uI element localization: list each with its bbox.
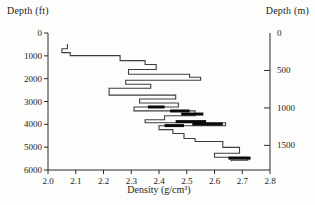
left-axis-tick-label: 1000	[24, 51, 43, 61]
left-axis-tick-label: 3000	[24, 97, 43, 107]
right-axis-tick-label: 0	[277, 28, 282, 38]
right-axis-title: Depth (m)	[266, 5, 309, 16]
left-axis-tick-label: 4000	[24, 119, 43, 129]
density-log-curve	[62, 44, 248, 161]
density-depth-figure: 01000200030004000500060000500100015002.0…	[0, 0, 315, 205]
left-axis-tick-label: 6000	[24, 165, 43, 175]
left-axis-tick-label: 2000	[24, 74, 43, 84]
x-axis-title: Density (g/cm³)	[48, 184, 270, 195]
left-axis-title: Depth (ft)	[7, 5, 49, 16]
density-depth-plot: 01000200030004000500060000500100015002.0…	[0, 0, 315, 205]
right-axis-tick-label: 1500	[277, 140, 296, 150]
left-axis-tick-label: 0	[38, 28, 43, 38]
axes-frame	[48, 33, 270, 170]
right-axis-tick-label: 500	[277, 65, 291, 75]
right-axis-tick-label: 1000	[277, 103, 296, 113]
left-axis-tick-label: 5000	[24, 142, 43, 152]
